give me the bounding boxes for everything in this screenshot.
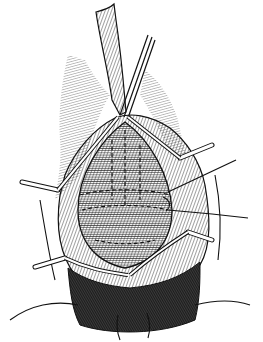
surgical-illustration [0,0,263,342]
